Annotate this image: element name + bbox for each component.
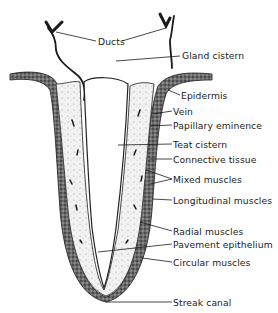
label-streak-canal: Streak canal xyxy=(173,297,231,308)
label-teat-cistern: Teat cistern xyxy=(173,139,227,150)
label-longitudinal-muscles: Longitudinal muscles xyxy=(173,195,272,206)
label-papillary-eminence: Papillary eminence xyxy=(173,120,262,131)
label-gland-cistern: Gland cistern xyxy=(182,50,244,61)
label-epidermis: Epidermis xyxy=(181,90,227,101)
label-radial-muscles: Radial muscles xyxy=(173,226,243,237)
label-ducts: Ducts xyxy=(98,36,125,47)
label-pavement-epithelium: Pavement epithelium xyxy=(173,239,273,250)
label-circular-muscles: Circular muscles xyxy=(173,257,251,268)
label-mixed-muscles: Mixed muscles xyxy=(173,174,242,185)
label-connective-tissue: Connective tissue xyxy=(173,154,256,165)
label-vein: Vein xyxy=(173,106,193,117)
